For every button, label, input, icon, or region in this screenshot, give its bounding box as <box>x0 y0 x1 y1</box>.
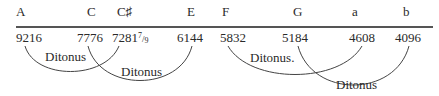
ratio-diagram: A C C♯ E F G a b 9216 7776 72817/9 6144 … <box>0 0 439 96</box>
interval-label-ditonus-3: Ditonus. <box>250 51 294 64</box>
interval-label-ditonus-4: Ditonus <box>336 78 377 91</box>
interval-label-ditonus-2: Ditonus <box>121 65 162 78</box>
arc-F-to-a <box>228 46 362 75</box>
interval-label-ditonus-1: Ditonus <box>45 50 86 63</box>
